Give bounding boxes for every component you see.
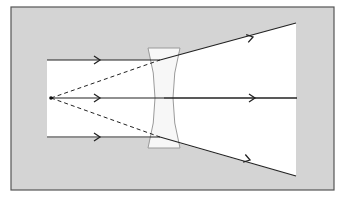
virtual-focal-point: [49, 96, 53, 100]
ray-diagram: [0, 0, 342, 201]
